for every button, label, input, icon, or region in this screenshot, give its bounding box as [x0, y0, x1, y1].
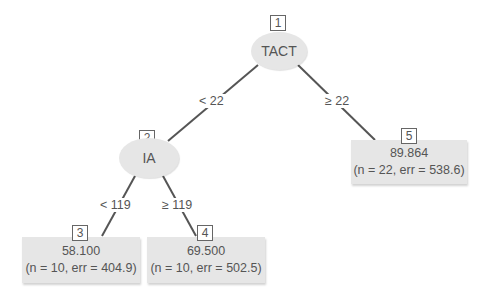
edge-label-2-3: < 119 [98, 198, 133, 212]
split-node-tact: TACT [251, 32, 307, 70]
edge-label-1-2: < 22 [197, 94, 226, 108]
leaf-stats: (n = 10, err = 404.9) [25, 260, 136, 277]
node-id-4: 4 [197, 225, 213, 241]
edge-label-1-5: ≥ 22 [323, 94, 351, 108]
leaf-value: 89.864 [390, 145, 428, 162]
node-id-5: 5 [401, 128, 417, 144]
split-variable: IA [142, 150, 155, 166]
split-variable: TACT [261, 43, 297, 59]
leaf-node-4: 69.500 (n = 10, err = 502.5) [147, 237, 265, 283]
edge-label-2-4: ≥ 119 [160, 198, 194, 212]
leaf-node-3: 58.100 (n = 10, err = 404.9) [22, 237, 140, 283]
leaf-stats: (n = 10, err = 502.5) [150, 260, 261, 277]
leaf-stats: (n = 22, err = 538.6) [353, 162, 464, 179]
leaf-node-5: 89.864 (n = 22, err = 538.6) [351, 140, 467, 184]
node-id-1: 1 [270, 15, 286, 31]
leaf-value: 69.500 [187, 243, 225, 260]
leaf-value: 58.100 [62, 243, 100, 260]
split-node-ia: IA [119, 138, 179, 178]
node-id-3: 3 [72, 225, 88, 241]
